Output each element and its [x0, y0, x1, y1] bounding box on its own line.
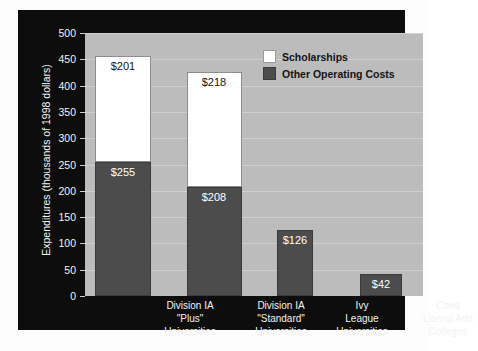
y-tick-label: 400: [58, 81, 76, 91]
bar-group[interactable]: $42: [360, 274, 402, 296]
chart-panel: 050100150200250300350400450500 Expenditu…: [18, 10, 405, 330]
chart-legend: Scholarships Other Operating Costs: [263, 50, 395, 84]
bar-value-label: $255: [96, 166, 150, 178]
x-axis-category-line: Colleges: [393, 325, 478, 338]
bar-segment-other-operating-costs[interactable]: $208: [187, 187, 242, 296]
y-tick-label: 200: [58, 186, 76, 196]
y-tick-label: 250: [58, 160, 76, 170]
bar-group[interactable]: $126: [277, 230, 313, 296]
y-tick-label: 150: [58, 212, 76, 222]
y-tick-label: 350: [58, 107, 76, 117]
bar-segment-other-operating-costs[interactable]: $255: [95, 162, 151, 296]
legend-item-scholarships: Scholarships: [263, 50, 395, 63]
bar-segment-scholarships[interactable]: $218: [187, 72, 242, 187]
x-axis-category-label: CoedLiberal ArtsColleges: [393, 299, 478, 338]
gridline: [85, 33, 423, 34]
y-tick-mark: [80, 296, 85, 297]
x-axis-categories: Division IA"Plus"UniversitiesDivision IA…: [85, 299, 423, 340]
bar-group[interactable]: $255$201: [95, 56, 151, 296]
legend-label: Other Operating Costs: [282, 68, 395, 80]
legend-label: Scholarships: [282, 51, 348, 63]
legend-swatch-icon: [263, 67, 276, 80]
bar-group[interactable]: $208$218: [187, 72, 242, 296]
x-axis-category-line: Liberal Arts: [393, 312, 478, 325]
bar-value-label: $201: [96, 60, 150, 72]
bar-value-label: $42: [361, 278, 401, 290]
y-tick-label: 50: [64, 265, 76, 275]
y-tick-label: 0: [70, 291, 76, 301]
y-tick-label: 300: [58, 133, 76, 143]
bar-value-label: $218: [188, 76, 241, 88]
bar-segment-other-operating-costs[interactable]: $42: [360, 274, 402, 296]
y-axis-title: Expenditures (thousands of 1998 dollars): [40, 35, 52, 285]
legend-item-other-operating-costs: Other Operating Costs: [263, 67, 395, 80]
y-tick-label: 100: [58, 238, 76, 248]
y-tick-label: 500: [58, 28, 76, 38]
legend-swatch-icon: [263, 50, 276, 63]
x-axis-category-line: Coed: [393, 299, 478, 312]
bar-segment-other-operating-costs[interactable]: $126: [277, 230, 313, 296]
bar-value-label: $126: [278, 234, 312, 246]
bar-value-label: $208: [188, 191, 241, 203]
bar-segment-scholarships[interactable]: $201: [95, 56, 151, 162]
y-tick-label: 450: [58, 54, 76, 64]
